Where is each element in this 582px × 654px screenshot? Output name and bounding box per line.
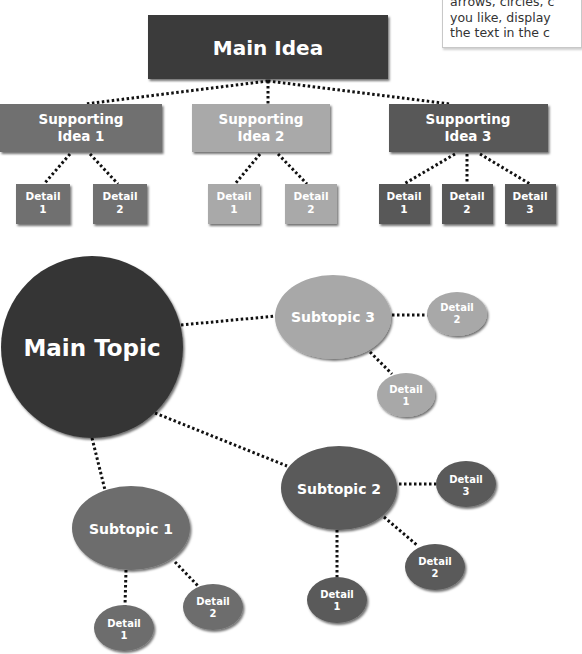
idea-1-detail-2: Detail 2 bbox=[93, 184, 147, 224]
main-topic-label: Main Topic bbox=[23, 335, 160, 361]
subtopic-3-label: Subtopic 3 bbox=[291, 309, 375, 325]
svg-text:Detail: Detail bbox=[25, 190, 60, 202]
supporting-idea-1-line1: Supporting bbox=[39, 111, 124, 127]
svg-text:Detail: Detail bbox=[512, 190, 547, 202]
svg-text:2: 2 bbox=[432, 568, 439, 579]
svg-text:3: 3 bbox=[526, 203, 533, 215]
svg-text:Detail: Detail bbox=[320, 589, 353, 600]
supporting-idea-1-box: Supporting Idea 1 bbox=[0, 104, 162, 152]
subtopic-2-detail-1: Detail 1 bbox=[307, 577, 367, 623]
subtopic-2-detail-3: Detail 3 bbox=[436, 461, 496, 507]
idea-2-detail-2: Detail 2 bbox=[285, 184, 337, 224]
main-idea-label: Main Idea bbox=[213, 36, 323, 60]
svg-text:Detail: Detail bbox=[102, 190, 137, 202]
idea-3-detail-1: Detail 1 bbox=[379, 184, 430, 224]
svg-text:2: 2 bbox=[454, 314, 461, 325]
svg-text:Detail: Detail bbox=[418, 556, 451, 567]
svg-text:2: 2 bbox=[210, 608, 217, 619]
subtopic-2-label: Subtopic 2 bbox=[297, 481, 381, 497]
svg-text:2: 2 bbox=[463, 203, 470, 215]
subtopic-3-detail-1: Detail 1 bbox=[377, 373, 435, 417]
idea-3-detail-3: Detail 3 bbox=[505, 184, 556, 224]
subtopic-2-ellipse: Subtopic 2 bbox=[281, 446, 397, 530]
supporting-idea-3-box: Supporting Idea 3 bbox=[389, 104, 548, 152]
svg-text:Detail: Detail bbox=[216, 190, 251, 202]
svg-text:Detail: Detail bbox=[440, 302, 473, 313]
subtopic-3-ellipse: Subtopic 3 bbox=[275, 275, 391, 359]
svg-text:Detail: Detail bbox=[449, 190, 484, 202]
svg-text:1: 1 bbox=[121, 630, 128, 641]
svg-text:2: 2 bbox=[307, 203, 314, 215]
supporting-idea-3-line1: Supporting bbox=[426, 111, 511, 127]
idea-3-detail-2: Detail 2 bbox=[442, 184, 493, 224]
main-topic-circle: Main Topic bbox=[1, 256, 183, 438]
idea-2-detail-1: Detail 1 bbox=[208, 184, 260, 224]
idea-1-detail-1: Detail 1 bbox=[16, 184, 70, 224]
subtopic-1-ellipse: Subtopic 1 bbox=[72, 486, 190, 570]
supporting-idea-1-line2: Idea 1 bbox=[57, 128, 104, 144]
svg-text:2: 2 bbox=[116, 203, 123, 215]
supporting-idea-2-box: Supporting Idea 2 bbox=[192, 104, 330, 152]
svg-text:1: 1 bbox=[403, 396, 410, 407]
svg-text:1: 1 bbox=[400, 203, 407, 215]
subtopic-1-detail-2: Detail 2 bbox=[183, 584, 243, 630]
subtopic-1-detail-1: Detail 1 bbox=[94, 605, 154, 651]
svg-text:Detail: Detail bbox=[386, 190, 421, 202]
subtopic-1-label: Subtopic 1 bbox=[89, 521, 173, 537]
subtopic-3-detail-2: Detail 2 bbox=[427, 292, 487, 336]
svg-text:1: 1 bbox=[230, 203, 237, 215]
svg-text:Detail: Detail bbox=[449, 474, 482, 485]
main-idea-box: Main Idea bbox=[148, 15, 388, 79]
subtopic-2-detail-2: Detail 2 bbox=[405, 544, 465, 590]
supporting-idea-2-line2: Idea 2 bbox=[237, 128, 284, 144]
svg-text:Detail: Detail bbox=[389, 384, 422, 395]
supporting-idea-3-line2: Idea 3 bbox=[444, 128, 491, 144]
supporting-idea-2-line1: Supporting bbox=[219, 111, 304, 127]
svg-text:Detail: Detail bbox=[293, 190, 328, 202]
svg-text:1: 1 bbox=[334, 601, 341, 612]
svg-text:Detail: Detail bbox=[196, 596, 229, 607]
svg-text:Detail: Detail bbox=[107, 618, 140, 629]
svg-text:3: 3 bbox=[463, 486, 470, 497]
svg-text:1: 1 bbox=[39, 203, 46, 215]
